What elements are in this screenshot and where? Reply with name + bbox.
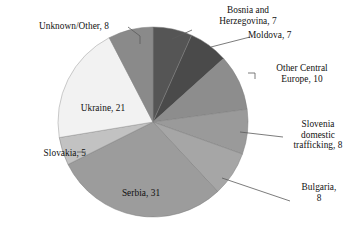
- pie-label-slovenia-domestic-trafficking-line3: trafficking, 8: [282, 140, 354, 151]
- pie-label-moldova: Moldova, 7: [248, 30, 346, 41]
- pie-label-slovakia: Slovakia, 5: [6, 148, 86, 159]
- pie-label-other-central-europe-line2: Europe, 10: [256, 74, 348, 85]
- pie-label-moldova-line1: Moldova, 7: [248, 30, 346, 41]
- pie-label-slovenia-domestic-trafficking: Slovenia domestic trafficking, 8: [282, 119, 354, 151]
- pie-label-unknown-other-line1: Unknown/Other, 8: [20, 21, 128, 32]
- pie-label-bulgaria-line2: 8: [290, 193, 348, 204]
- pie-label-bosnia-and-herzegovina-line1: Bosnia and: [196, 5, 300, 16]
- pie-label-other-central-europe: Other Central Europe, 10: [256, 63, 348, 84]
- pie-label-ukraine: Ukraine, 21: [64, 103, 142, 114]
- leader-line-bulgaria: [222, 178, 290, 201]
- pie-label-unknown-other: Unknown/Other, 8: [20, 21, 128, 32]
- pie-label-serbia-line1: Serbia, 31: [106, 188, 176, 199]
- leader-line-moldova: [211, 37, 250, 47]
- pie-label-bulgaria-line1: Bulgaria,: [290, 182, 348, 193]
- pie-label-ukraine-line1: Ukraine, 21: [64, 103, 142, 114]
- pie-label-slovakia-line1: Slovakia, 5: [6, 148, 86, 159]
- leader-line-other-central-europe: [248, 73, 255, 79]
- pie-chart: Bosnia and Herzegovina, 7 Moldova, 7 Oth…: [0, 0, 356, 235]
- pie-label-bosnia-and-herzegovina: Bosnia and Herzegovina, 7: [196, 5, 300, 26]
- pie-label-slovenia-domestic-trafficking-line1: Slovenia: [282, 119, 354, 130]
- pie-label-bosnia-and-herzegovina-line2: Herzegovina, 7: [196, 16, 300, 27]
- pie-label-other-central-europe-line1: Other Central: [256, 63, 348, 74]
- pie-label-bulgaria: Bulgaria, 8: [290, 182, 348, 203]
- pie-label-serbia: Serbia, 31: [106, 188, 176, 199]
- pie-label-slovenia-domestic-trafficking-line2: domestic: [282, 130, 354, 141]
